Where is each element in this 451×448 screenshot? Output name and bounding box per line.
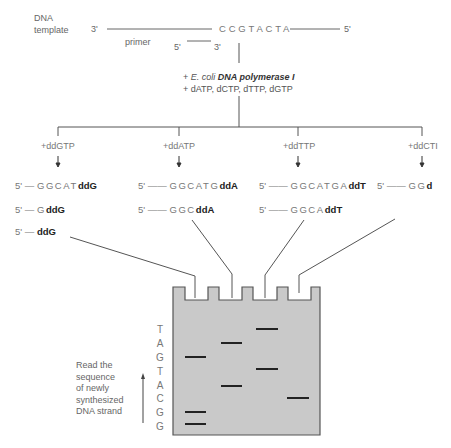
connector-lane-t (265, 220, 304, 298)
reaction-label-ddgtp: +ddGTP (41, 141, 75, 151)
read-direction-arrow-icon (141, 373, 145, 423)
reagents-line1: + E. coli DNA polymerase I (183, 72, 295, 82)
product-g-3: 5' — ddG (15, 226, 56, 237)
product-g-1: 5' — GGCATddG (15, 180, 97, 191)
product-c-1: 5' —— GGd (377, 180, 432, 191)
reaction-label-ddctp: +ddCTI (408, 141, 438, 151)
product-t-1: 5' —— GGCATGAddT (259, 180, 366, 191)
product-t-2: 5' —— GGCAddT (259, 204, 342, 215)
product-a-2: 5' —— GGCddA (138, 204, 214, 215)
primer-label: primer (125, 37, 151, 47)
template-label-line1: DNA (34, 13, 53, 23)
reaction-label-ddttp: +ddTTP (283, 141, 315, 151)
read-letter: T (154, 366, 166, 377)
read-letter: G (154, 352, 166, 363)
connector-lane-c (299, 219, 395, 293)
primer-5prime: 5' (174, 42, 181, 52)
product-a-1: 5' —— GGCATGddA (138, 180, 238, 191)
read-letter: T (154, 324, 166, 335)
arrow-down-icons (56, 156, 424, 167)
template-5prime: 5' (344, 24, 351, 34)
read-direction-label: Read the sequence of newly synthesized D… (76, 360, 124, 418)
primer-3prime: 3' (214, 42, 221, 52)
read-letter: G (154, 407, 166, 418)
read-letter: A (154, 380, 166, 391)
product-g-2: 5' — GddG (15, 204, 65, 215)
diagram-lines (0, 0, 451, 448)
connector-lane-a (192, 220, 232, 298)
reaction-label-ddatp: +ddATP (163, 141, 195, 151)
reagents-line2: + dATP, dCTP, dTTP, dGTP (183, 84, 293, 94)
read-letter: A (154, 338, 166, 349)
read-letter: G (154, 421, 166, 432)
template-3prime: 3' (91, 24, 98, 34)
template-sequence: CCGTACTA (219, 23, 292, 34)
read-letter: C (154, 393, 166, 404)
template-label-line2: template (34, 25, 69, 35)
